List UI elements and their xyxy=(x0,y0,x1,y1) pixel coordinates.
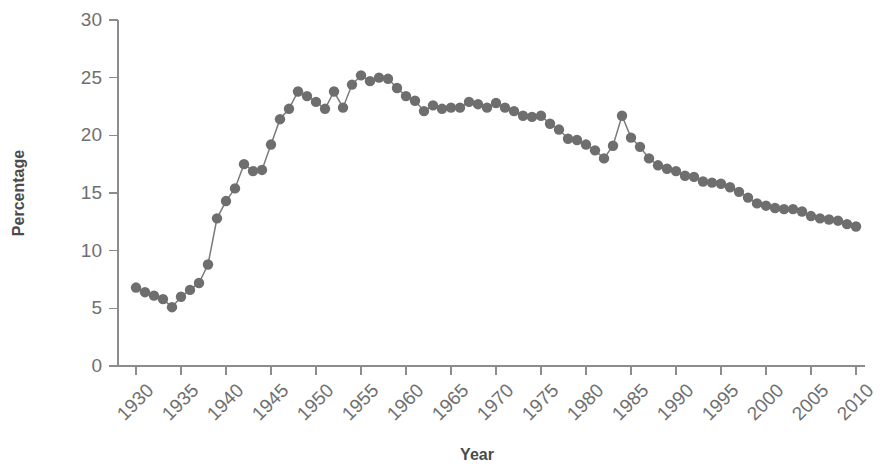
data-point xyxy=(185,285,195,295)
x-axis: 1930193519401945195019551960196519701975… xyxy=(113,366,878,463)
data-point xyxy=(302,91,312,101)
data-point xyxy=(824,214,834,224)
data-point xyxy=(131,282,141,292)
y-tick-label: 30 xyxy=(81,9,102,30)
data-point xyxy=(761,200,771,210)
data-point xyxy=(365,76,375,86)
data-point xyxy=(392,83,402,93)
x-tick-label: 2005 xyxy=(788,380,833,425)
data-point xyxy=(320,104,330,114)
data-point xyxy=(842,219,852,229)
data-point xyxy=(212,213,222,223)
x-tick-label: 1960 xyxy=(383,380,428,425)
y-tick-label: 25 xyxy=(81,67,102,88)
data-point xyxy=(770,203,780,213)
data-point xyxy=(410,96,420,106)
x-tick-label: 1970 xyxy=(473,380,518,425)
data-point xyxy=(311,97,321,107)
data-point xyxy=(608,141,618,151)
data-point xyxy=(167,302,177,312)
x-tick-label: 1940 xyxy=(203,380,248,425)
data-point xyxy=(347,79,357,89)
data-point xyxy=(725,182,735,192)
x-tick-label: 1985 xyxy=(608,380,653,425)
chart-figure: 051015202530 Percentage 1930193519401945… xyxy=(0,0,886,476)
data-point xyxy=(689,172,699,182)
data-point xyxy=(293,86,303,96)
data-point xyxy=(806,211,816,221)
data-point xyxy=(473,99,483,109)
data-point xyxy=(221,196,231,206)
data-point xyxy=(383,74,393,84)
data-point xyxy=(545,119,555,129)
data-point xyxy=(536,111,546,121)
x-tick-label: 1975 xyxy=(518,380,563,425)
data-point xyxy=(356,70,366,80)
data-point xyxy=(329,86,339,96)
x-tick-label: 1980 xyxy=(563,380,608,425)
x-tick-label: 1965 xyxy=(428,380,473,425)
data-point xyxy=(239,159,249,169)
y-tick-label: 15 xyxy=(81,182,102,203)
data-point xyxy=(680,171,690,181)
data-point xyxy=(707,177,717,187)
data-point xyxy=(194,278,204,288)
data-point xyxy=(266,139,276,149)
data-point xyxy=(455,102,465,112)
data-point xyxy=(176,292,186,302)
x-tick-group: 1930193519401945195019551960196519701975… xyxy=(113,366,878,424)
x-tick-label: 1955 xyxy=(338,380,383,425)
data-point xyxy=(140,287,150,297)
x-tick-label: 1995 xyxy=(698,380,743,425)
data-point xyxy=(437,104,447,114)
data-point xyxy=(671,166,681,176)
y-tick-label: 20 xyxy=(81,124,102,145)
data-point xyxy=(374,72,384,82)
data-point xyxy=(626,132,636,142)
data-point xyxy=(779,204,789,214)
data-point xyxy=(563,134,573,144)
data-point xyxy=(572,135,582,145)
data-point xyxy=(446,102,456,112)
data-point xyxy=(662,164,672,174)
data-point xyxy=(509,106,519,116)
x-tick-label: 2000 xyxy=(743,380,788,425)
data-point xyxy=(284,104,294,114)
x-tick-label: 2010 xyxy=(833,380,878,425)
y-tick-label: 10 xyxy=(81,240,102,261)
data-point xyxy=(797,206,807,216)
data-series xyxy=(131,70,861,312)
x-axis-title: Year xyxy=(460,446,494,463)
x-tick-label: 1930 xyxy=(113,380,158,425)
data-point xyxy=(743,192,753,202)
data-point xyxy=(275,114,285,124)
data-point xyxy=(491,98,501,108)
data-point xyxy=(419,106,429,116)
data-point xyxy=(851,221,861,231)
data-point xyxy=(653,160,663,170)
data-point xyxy=(230,183,240,193)
series-line xyxy=(136,75,856,307)
data-point xyxy=(644,153,654,163)
data-point xyxy=(698,176,708,186)
data-point xyxy=(635,142,645,152)
data-point xyxy=(734,187,744,197)
data-point xyxy=(257,165,267,175)
percentage-by-year-line-chart: 051015202530 Percentage 1930193519401945… xyxy=(0,0,886,476)
x-tick-label: 1950 xyxy=(293,380,338,425)
data-point xyxy=(401,91,411,101)
x-tick-label: 1990 xyxy=(653,380,698,425)
data-point xyxy=(203,259,213,269)
y-axis-title: Percentage xyxy=(10,150,27,236)
y-tick-group: 051015202530 xyxy=(81,9,118,376)
data-point xyxy=(482,102,492,112)
x-tick-label: 1945 xyxy=(248,380,293,425)
data-point xyxy=(464,97,474,107)
data-point xyxy=(617,111,627,121)
data-point xyxy=(815,213,825,223)
x-tick-label: 1935 xyxy=(158,380,203,425)
data-point xyxy=(158,294,168,304)
data-point xyxy=(788,204,798,214)
data-point xyxy=(527,112,537,122)
data-point xyxy=(752,198,762,208)
